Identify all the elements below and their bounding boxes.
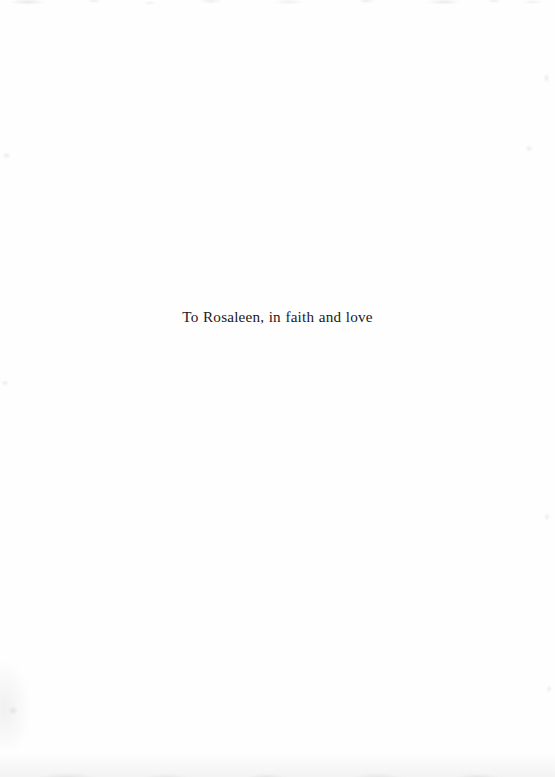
scan-noise-bottom-edge [0, 747, 555, 777]
scan-fleck-icon [8, 706, 18, 715]
scan-fleck-icon [2, 152, 11, 159]
scan-smudge-lower-left [0, 659, 32, 749]
scan-fleck-icon [1, 380, 9, 386]
dedication-text: To Rosaleen, in faith and love [182, 306, 372, 327]
scan-noise-top-edge [0, 0, 555, 10]
dedication-block: To Rosaleen, in faith and love [0, 306, 555, 327]
scan-fleck-icon [543, 73, 550, 83]
scan-fleck-icon [525, 145, 533, 152]
scan-fleck-icon [546, 685, 552, 693]
dedication-page: To Rosaleen, in faith and love [0, 0, 555, 777]
scan-fleck-icon [544, 513, 550, 521]
